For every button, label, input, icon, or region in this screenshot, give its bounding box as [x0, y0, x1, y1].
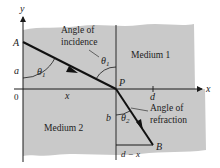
x-axis-label: x [205, 83, 211, 94]
length-b-label: b [106, 112, 111, 123]
length-a-label: a [14, 65, 19, 76]
medium-2-label: Medium 2 [44, 123, 84, 133]
incidence-label-line2: incidence [61, 37, 97, 47]
origin-label: 0 [14, 92, 19, 102]
point-b-label: B [156, 141, 162, 152]
refraction-label-line1: Angle of [150, 103, 184, 113]
refraction-diagram: y x 0 A P B a x d b d − x Medium 1 Mediu… [0, 0, 220, 168]
point-a-label: A [12, 37, 20, 48]
incidence-label-line1: Angle of [61, 25, 95, 35]
y-axis-label: y [19, 3, 25, 14]
medium-1-label: Medium 1 [131, 50, 171, 60]
length-x-label: x [64, 90, 70, 101]
point-p-label: P [118, 77, 125, 88]
refraction-label-line2: refraction [150, 115, 187, 125]
length-d-minus-x-label: d − x [121, 149, 140, 159]
